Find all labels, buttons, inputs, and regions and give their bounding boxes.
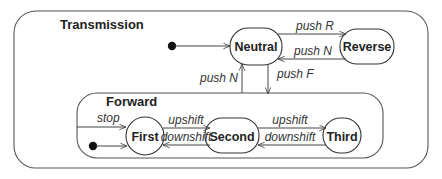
initial-pseudostate-forward xyxy=(89,142,97,150)
initial-pseudostate-transmission xyxy=(168,42,176,50)
state-third: Third xyxy=(323,118,361,153)
state-reverse-label: Reverse xyxy=(343,40,392,54)
transition-push-f-label: push F xyxy=(276,67,314,81)
state-first: First xyxy=(126,117,164,155)
state-neutral: Neutral xyxy=(230,28,282,65)
transition-downshift-2-1-label: downshift xyxy=(161,130,212,144)
transition-downshift-3-2-label: downshift xyxy=(265,130,316,144)
state-second: Second xyxy=(205,118,259,153)
state-first-label: First xyxy=(131,130,159,144)
transition-upshift-1-2-label: upshift xyxy=(168,113,204,127)
transmission-label: Transmission xyxy=(60,17,144,32)
transition-upshift-2-3-label: upshift xyxy=(272,113,308,127)
state-second-label: Second xyxy=(209,130,254,144)
transmission-state-diagram: Transmission Neutral Reverse push R push… xyxy=(0,0,442,179)
transition-stop-label: stop xyxy=(97,111,120,125)
transition-push-r-label: push R xyxy=(295,19,334,33)
forward-label: Forward xyxy=(106,94,157,109)
state-reverse: Reverse xyxy=(340,29,394,64)
state-third-label: Third xyxy=(326,130,357,144)
transition-push-n-forward-label: push N xyxy=(199,71,238,85)
transition-push-n-reverse-label: push N xyxy=(293,44,332,58)
state-neutral-label: Neutral xyxy=(234,40,277,54)
